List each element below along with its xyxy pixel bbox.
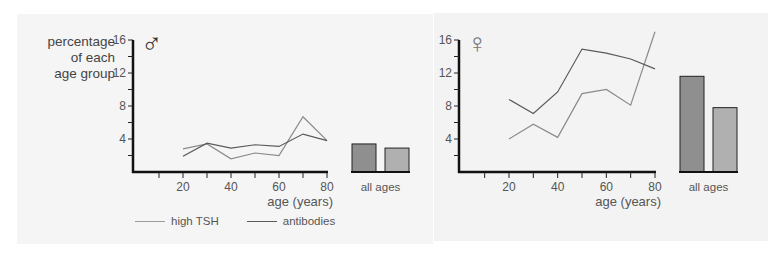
chart-canvas: 48121620406080age (years)all ages4812162… <box>0 0 770 255</box>
x-tick-label: 80 <box>648 180 662 194</box>
summary-bar-antibodies <box>352 144 376 172</box>
legend-label-antibodies: antibodies <box>283 215 335 227</box>
summary-bar-antibodies <box>680 76 704 172</box>
summary-bar-high-tsh <box>385 148 409 172</box>
y-tick-label: 12 <box>113 66 127 80</box>
x-tick-label: 40 <box>224 180 238 194</box>
series-line-antibodies <box>509 49 655 113</box>
x-tick-label: 20 <box>502 180 516 194</box>
x-tick-label: 60 <box>272 180 286 194</box>
x-axis-label: age (years) <box>595 194 661 209</box>
series-line-high-tsh <box>509 32 655 139</box>
x-tick-label: 20 <box>176 180 190 194</box>
y-tick-label: 16 <box>113 33 127 47</box>
summary-bars-label: all ages <box>361 181 401 193</box>
y-tick-label: 4 <box>119 132 126 146</box>
legend: high TSH antibodies <box>135 215 335 227</box>
x-tick-label: 40 <box>551 180 565 194</box>
legend-swatch-antibodies <box>247 221 277 222</box>
legend-label-high-tsh: high TSH <box>171 215 219 227</box>
y-tick-label: 12 <box>439 66 453 80</box>
legend-swatch-high-tsh <box>135 221 165 222</box>
summary-bars-label: all ages <box>689 181 729 193</box>
summary-bar-high-tsh <box>713 108 737 172</box>
y-tick-label: 8 <box>119 99 126 113</box>
x-axis-label: age (years) <box>267 194 333 209</box>
y-tick-label: 16 <box>439 33 453 47</box>
y-tick-label: 8 <box>445 99 452 113</box>
series-line-high-tsh <box>183 117 327 159</box>
x-tick-label: 60 <box>600 180 614 194</box>
y-tick-label: 4 <box>445 132 452 146</box>
x-tick-label: 80 <box>320 180 334 194</box>
